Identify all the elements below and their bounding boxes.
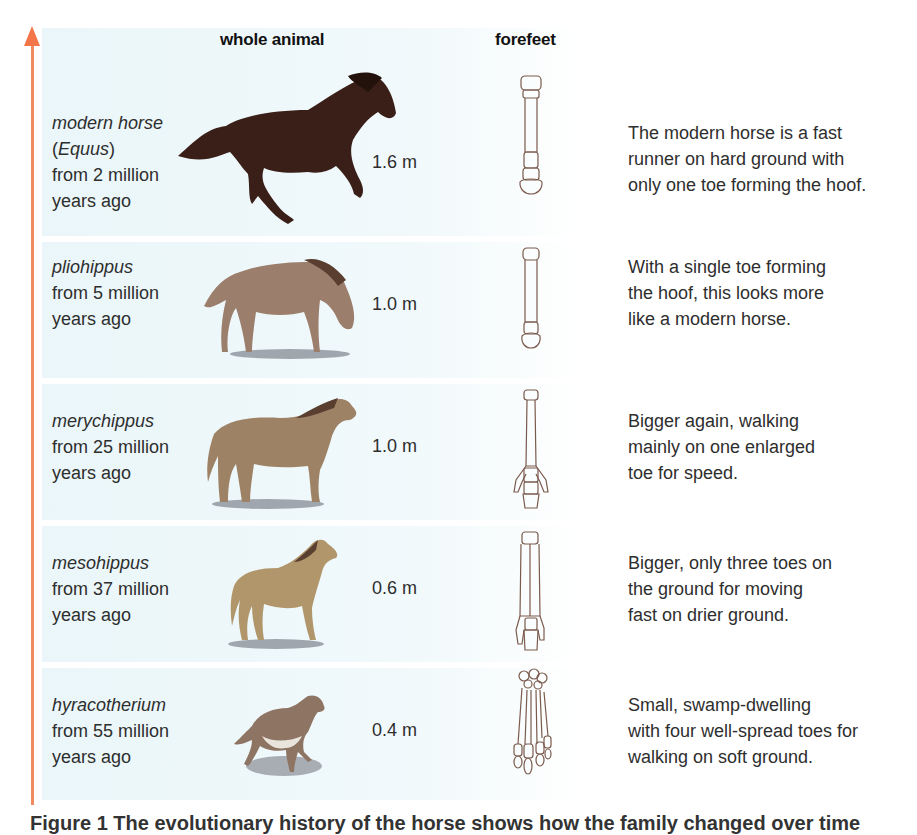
row-description: The modern horse is a fast runner on har…: [628, 120, 866, 198]
figure-caption: Figure 1 The evolutionary history of the…: [30, 812, 860, 835]
row-mesohippus: mesohippus from 37 million years ago 0.6…: [0, 520, 917, 660]
species-name: merychippus: [52, 408, 169, 434]
species-name: mesohippus: [52, 550, 169, 576]
genus-name: Equus: [58, 139, 109, 159]
genus-line: (Equus): [52, 136, 163, 162]
height-label: 0.6 m: [372, 578, 417, 599]
row-label: mesohippus from 37 million years ago: [52, 550, 169, 628]
forefoot-four-toe-icon: [510, 668, 554, 780]
species-name: modern horse: [52, 113, 163, 133]
row-description: Bigger, only three toes on the ground fo…: [628, 550, 832, 628]
row-modern-horse: modern horse (Equus) from 2 million year…: [0, 62, 917, 202]
header-whole-animal: whole animal: [220, 30, 324, 50]
forefoot-three-toe-icon: [510, 388, 552, 512]
row-divider: [42, 236, 582, 242]
row-description: Bigger again, walking mainly on one enla…: [628, 408, 815, 486]
forefoot-one-toe-icon: [518, 246, 544, 356]
row-description: Small, swamp-dwelling with four well-spr…: [628, 692, 858, 770]
header-forefeet: forefeet: [495, 30, 556, 50]
time-line-1: from 5 million: [52, 280, 159, 306]
merychippus-illustration: [200, 394, 360, 512]
timeline-arrow-up-icon: [24, 26, 40, 46]
row-label: pliohippus from 5 million years ago: [52, 254, 159, 332]
row-pliohippus: pliohippus from 5 million years ago 1.0 …: [0, 236, 917, 376]
time-line-1: from 55 million: [52, 718, 169, 744]
time-line-2: years ago: [52, 460, 169, 486]
row-divider: [42, 662, 582, 668]
hyracotherium-illustration: [232, 692, 332, 778]
height-label: 0.4 m: [372, 720, 417, 741]
time-line-2: years ago: [52, 306, 159, 332]
species-name: hyracotherium: [52, 692, 169, 718]
row-divider: [42, 378, 582, 384]
time-line-2: years ago: [52, 744, 169, 770]
height-label: 1.0 m: [372, 294, 417, 315]
row-divider: [42, 520, 582, 526]
mesohippus-illustration: [218, 536, 346, 652]
forefoot-one-toe-icon: [515, 74, 547, 204]
row-hyracotherium: hyracotherium from 55 million years ago …: [0, 662, 917, 802]
forefoot-three-toe-icon: [512, 530, 548, 654]
modern-horse-illustration: [168, 68, 400, 228]
height-label: 1.6 m: [372, 152, 417, 173]
time-line-1: from 2 million: [52, 162, 163, 188]
row-description: With a single toe forming the hoof, this…: [628, 254, 826, 332]
time-line-2: years ago: [52, 602, 169, 628]
time-line-1: from 37 million: [52, 576, 169, 602]
row-label: hyracotherium from 55 million years ago: [52, 692, 169, 770]
height-label: 1.0 m: [372, 436, 417, 457]
time-line-1: from 25 million: [52, 434, 169, 460]
time-line-2: years ago: [52, 188, 163, 214]
row-merychippus: merychippus from 25 million years ago 1.…: [0, 378, 917, 518]
row-label: modern horse (Equus) from 2 million year…: [52, 110, 163, 214]
row-label: merychippus from 25 million years ago: [52, 408, 169, 486]
pliohippus-illustration: [200, 256, 360, 366]
species-name: pliohippus: [52, 254, 159, 280]
